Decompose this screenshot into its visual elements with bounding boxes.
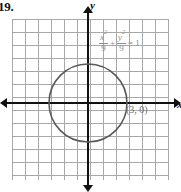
grid-line-vertical — [25, 19, 26, 180]
grid-line-horizontal — [12, 45, 168, 46]
grid-line-vertical — [12, 19, 13, 180]
grid-line-vertical — [142, 19, 143, 180]
grid-line-horizontal — [12, 32, 168, 33]
equation-y-term: y2 9 — [117, 33, 126, 54]
problem-number: 19. — [0, 0, 13, 15]
equation-x-term: x2 9 — [99, 33, 108, 54]
grid-line-vertical — [155, 19, 156, 180]
equation-y-numerator: y2 — [117, 33, 126, 42]
x-axis-label: x — [177, 98, 181, 110]
equation-x-exponent: 2 — [104, 29, 107, 35]
equation-x-denominator: 9 — [100, 44, 107, 53]
graph-figure: 19. y x x2 9 + y2 9 = 1 (3, 0) — [0, 0, 181, 192]
grid-line-horizontal — [12, 162, 168, 163]
grid-line-vertical — [38, 19, 39, 180]
equation-x-numerator: x2 — [99, 33, 108, 42]
y-axis-down-arrow-icon — [83, 185, 93, 192]
grid-line-horizontal — [12, 175, 168, 176]
circle-curve — [48, 63, 128, 143]
equation-y-exponent: 2 — [122, 29, 125, 35]
equation-right-side: 1 — [135, 39, 140, 48]
grid-line-horizontal — [12, 149, 168, 150]
grid-line-horizontal — [12, 19, 168, 20]
equation-label: x2 9 + y2 9 = 1 — [99, 33, 140, 54]
y-axis-label: y — [90, 0, 95, 11]
grid-line-horizontal — [12, 58, 168, 59]
point-label-3-0: (3, 0) — [126, 104, 148, 115]
grid-line-vertical — [168, 19, 169, 180]
equation-operator: + — [108, 39, 117, 48]
equation-equals-sign: = — [126, 39, 135, 48]
equation-y-denominator: 9 — [118, 44, 125, 53]
x-axis-left-arrow-icon — [0, 98, 7, 108]
